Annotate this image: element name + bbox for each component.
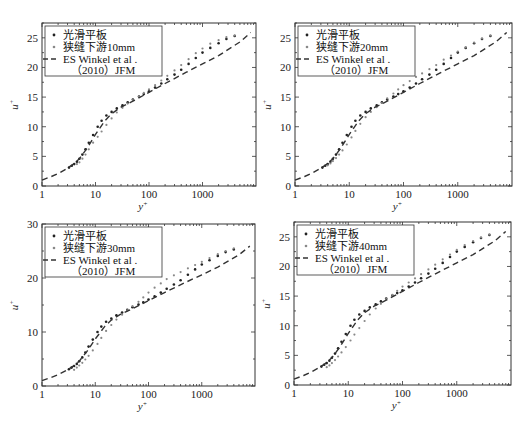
legend-entry: （2010）JFM	[71, 64, 135, 76]
data-point	[127, 103, 129, 105]
chart-panel-top-right: 11010010000510152025y+u+光滑平板狭缝下游20mmES W…	[261, 23, 512, 212]
data-point	[337, 355, 339, 357]
data-point	[421, 72, 423, 74]
legend-marker-gray-dot	[306, 46, 309, 49]
data-point	[84, 358, 86, 360]
data-point	[349, 339, 351, 341]
y-tick-label: 20	[27, 272, 39, 284]
x-tick-label: 1	[291, 387, 297, 399]
data-point	[480, 236, 482, 238]
data-point	[396, 290, 398, 292]
data-point	[358, 313, 361, 316]
legend: 光滑平板狭缝下游10mmES Winkel et al .（2010）JFM	[43, 26, 162, 76]
data-point	[121, 311, 124, 314]
data-point	[435, 64, 437, 66]
data-point	[421, 78, 424, 81]
legend-entry: 狭缝下游40mm	[315, 239, 388, 252]
data-point	[450, 55, 452, 57]
legend-entry: 光滑平板	[63, 229, 107, 242]
data-point	[218, 39, 220, 41]
data-point	[427, 272, 430, 275]
x-tick-label: 1000	[447, 188, 470, 200]
legend-marker-gray-dot	[305, 245, 308, 248]
y-tick-label: 25	[27, 32, 39, 44]
data-point	[414, 281, 417, 284]
data-point	[188, 58, 190, 60]
legend-marker-gray-dot	[53, 247, 56, 250]
data-point	[148, 88, 150, 90]
legend-marker-gray-dot	[53, 46, 56, 49]
x-tick-label: 10	[344, 188, 356, 200]
data-point	[173, 274, 175, 276]
data-point	[121, 314, 123, 316]
data-point	[105, 320, 108, 323]
data-point	[217, 42, 220, 45]
data-point	[435, 69, 438, 72]
data-point	[334, 359, 336, 361]
legend-entry: （2010）JFM	[323, 263, 387, 275]
data-point	[370, 107, 373, 110]
data-point	[165, 288, 168, 291]
y-tick-label: 10	[27, 121, 39, 133]
data-point	[449, 256, 452, 259]
legend-entry: 狭缝下游30mm	[63, 241, 136, 254]
data-point	[396, 292, 399, 295]
data-point	[335, 157, 337, 159]
data-point	[420, 273, 422, 275]
data-point	[346, 143, 348, 145]
data-point	[375, 307, 377, 309]
data-point	[92, 142, 94, 144]
data-point	[201, 51, 204, 54]
data-point	[101, 130, 103, 132]
data-point	[209, 43, 211, 45]
y-tick-label: 10	[27, 326, 39, 338]
data-point	[180, 271, 182, 273]
data-point	[457, 50, 459, 52]
y-tick-label: 0	[286, 180, 292, 192]
x-tick-label: 10	[343, 387, 355, 399]
data-point	[449, 254, 451, 256]
data-point	[434, 264, 436, 266]
data-point	[350, 136, 352, 138]
data-point	[81, 362, 83, 364]
y-tick-label: 15	[279, 290, 291, 302]
data-point	[173, 69, 175, 71]
data-point	[441, 262, 444, 265]
data-point	[428, 68, 430, 70]
data-point	[147, 292, 149, 294]
data-point	[233, 247, 235, 249]
data-point	[96, 125, 99, 128]
data-point	[489, 34, 491, 36]
data-point	[428, 73, 431, 76]
data-point	[225, 36, 227, 38]
legend-entry: 光滑平板	[63, 28, 107, 41]
data-point	[331, 362, 333, 364]
data-point	[105, 124, 107, 126]
legend: 光滑平板狭缝下游40mmES Winkel et al .（2010）JFM	[295, 225, 414, 275]
y-axis-label: u+	[8, 99, 20, 110]
data-point	[442, 63, 445, 66]
data-point	[427, 268, 429, 270]
data-point	[443, 59, 445, 61]
data-point	[92, 349, 94, 351]
data-point	[96, 331, 99, 334]
y-tick-label: 30	[27, 218, 39, 230]
data-point	[160, 282, 162, 284]
data-point	[76, 163, 78, 165]
data-point	[194, 264, 196, 266]
data-point	[341, 149, 343, 151]
data-point	[187, 274, 190, 277]
legend-entry: 光滑平板	[316, 28, 360, 41]
data-point	[217, 253, 219, 255]
x-axis-label: y+	[137, 400, 148, 412]
chart-panel-bottom-right: 11010010000510152025y+u+光滑平板狭缝下游40mmES W…	[260, 222, 511, 411]
data-point	[353, 319, 356, 322]
legend-entry: （2010）JFM	[324, 64, 388, 76]
x-axis-label: y+	[391, 399, 402, 411]
data-point	[364, 320, 366, 322]
data-point	[420, 277, 423, 280]
data-point	[105, 114, 108, 117]
data-point	[208, 257, 210, 259]
data-point	[78, 364, 80, 366]
y-tick-label: 20	[27, 61, 39, 73]
